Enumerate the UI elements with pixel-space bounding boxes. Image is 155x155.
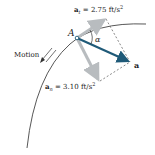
angle-alpha-label: α [95,35,101,44]
motion-arrow-head [40,57,45,63]
tangential-acceleration-label: at = 2.75 ft/s2 [74,4,123,15]
point-a-marker [75,36,79,40]
acceleration-diagram: A α Motion a at = 2.75 ft/s2 an = 3.10 f… [0,0,155,155]
motion-arrow-line-2 [46,50,56,62]
normal-acceleration-vector [77,38,98,79]
motion-label: Motion [14,51,40,59]
normal-acceleration-label: an = 3.10 ft/s2 [45,81,95,92]
resultant-acceleration-vector [77,38,128,61]
point-a-label: A [67,28,75,38]
resultant-a-label: a [134,60,139,70]
dashed-line-normal-to-a [100,62,130,81]
motion-arrow-line-1 [42,48,52,60]
